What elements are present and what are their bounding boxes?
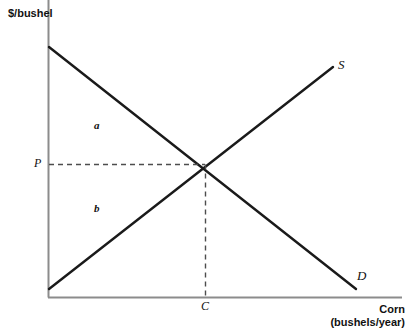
region-label-a: a <box>94 120 100 131</box>
equilibrium-quantity-label: C <box>201 300 209 312</box>
y-axis-title: $/bushel <box>8 8 53 19</box>
supply-curve <box>49 67 333 289</box>
demand-curve-label: D <box>357 269 366 282</box>
region-label-b: b <box>94 203 100 214</box>
x-axis-title-line1: Corn <box>330 303 405 316</box>
supply-demand-chart: $/bushel Corn (bushels/year) S D P C a b <box>0 0 409 331</box>
x-axis-title-line2: (bushels/year) <box>330 316 405 329</box>
x-axis-title: Corn (bushels/year) <box>330 303 405 329</box>
equilibrium-price-label: P <box>34 157 41 169</box>
supply-curve-label: S <box>338 58 345 71</box>
chart-plot-area <box>0 0 409 331</box>
